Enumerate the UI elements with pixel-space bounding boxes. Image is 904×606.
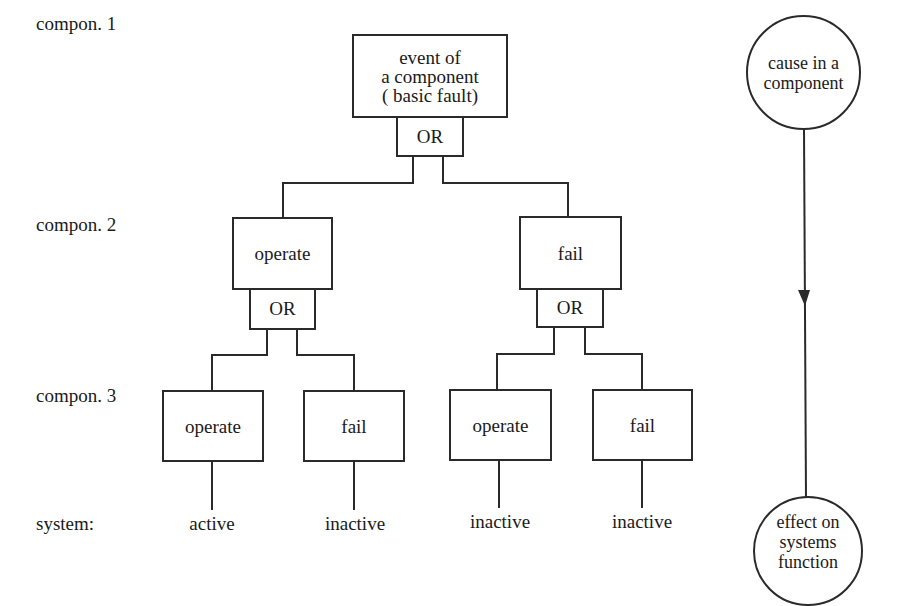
system-state-4: inactive [612, 511, 672, 533]
top-or-gate: OR [396, 116, 464, 157]
level2-operate-box: operate [232, 217, 333, 290]
cause-effect-line [804, 129, 806, 497]
level-label-system: system: [36, 513, 94, 535]
connector-top-left [283, 156, 413, 217]
arrow-down-icon [798, 290, 810, 306]
connector-l2a-right [297, 329, 354, 390]
effect-circle: effect on systems function [753, 496, 863, 606]
connector-l2b-left [497, 327, 554, 389]
level3-box-2: fail [303, 390, 405, 462]
connector-top-right [443, 156, 568, 216]
system-state-3: inactive [470, 511, 530, 533]
level3-box-1: operate [162, 390, 264, 462]
level-label-3: compon. 3 [36, 385, 116, 407]
level3-box-3: operate [449, 389, 552, 461]
top-event-box: event of a component ( basic fault) [352, 34, 508, 118]
connector-l2b-right [585, 327, 642, 389]
cause-circle: cause in a component [746, 15, 861, 130]
level2-operate-or-gate: OR [249, 288, 316, 330]
level2-fail-box: fail [519, 216, 622, 290]
level-label-1: compon. 1 [36, 13, 116, 35]
level3-box-4: fail [592, 389, 693, 461]
system-state-1: active [189, 513, 234, 535]
system-state-2: inactive [325, 513, 385, 535]
level-label-2: compon. 2 [36, 214, 116, 236]
level2-fail-or-gate: OR [536, 288, 604, 328]
connector-l2a-left [212, 329, 267, 390]
